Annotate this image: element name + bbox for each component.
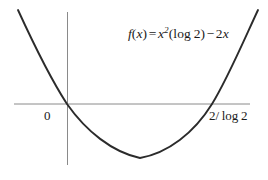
function-graph-figure: f(x)=x2(log 2)−2x 0 2/ log 2 (0, 0, 268, 180)
equation-minus: − (205, 26, 216, 41)
equation-coefficient: 2 (216, 26, 223, 41)
root-log-arg: 2 (241, 108, 248, 123)
root-tick-label: 2/ log 2 (209, 109, 247, 122)
equation-log-arg: 2 (194, 26, 201, 41)
equation-equals: = (147, 26, 158, 41)
equation-log: log (173, 26, 191, 41)
equation-linear-var: x (223, 26, 229, 41)
root-numerator: 2/ (209, 108, 219, 123)
equation-annotation: f(x)=x2(log 2)−2x (128, 27, 229, 41)
origin-tick-label: 0 (44, 109, 51, 122)
root-log: log (222, 108, 239, 123)
